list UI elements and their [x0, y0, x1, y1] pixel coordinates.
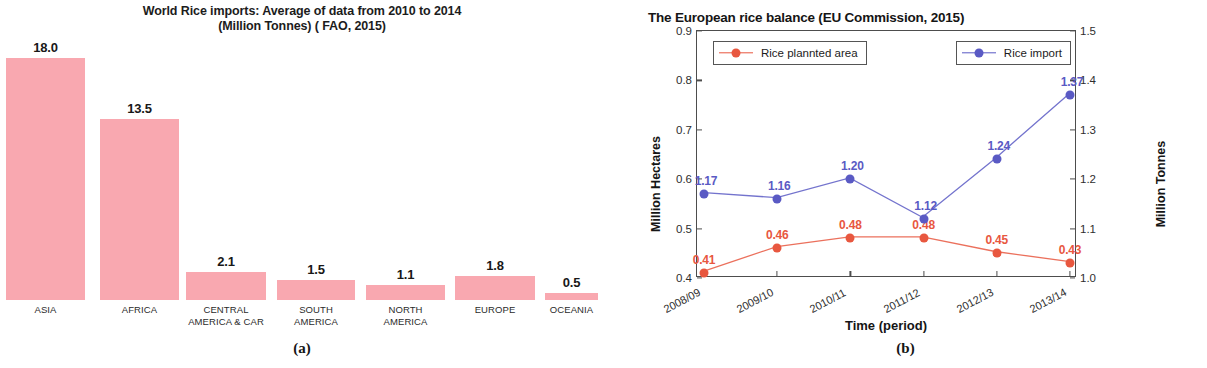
y-axis-left-tick: 0.8: [676, 74, 692, 86]
bar-category-label: ASIA: [0, 304, 97, 316]
bar-category-line: AMERICA: [265, 316, 367, 328]
figure-caption-a: (a): [0, 340, 604, 357]
figure-caption-b: (b): [604, 340, 1207, 357]
data-point-marker[interactable]: [700, 269, 709, 278]
y-axis-right-tick-mark: [1070, 129, 1075, 130]
y-axis-left-tick-mark: [697, 228, 702, 229]
bar-category-label: SOUTHAMERICA: [265, 304, 367, 327]
panel-b-line-chart: The European rice balance (EU Commission…: [604, 0, 1207, 368]
legend-label-planted: Rice plannted area: [761, 47, 858, 59]
data-point-label: 0.41: [693, 253, 716, 267]
y-axis-left-label: Million Hectares: [649, 136, 663, 232]
bar-value-label: 0.5: [545, 275, 598, 290]
data-point-label: 0.46: [766, 228, 789, 242]
y-axis-left-tick: 0.6: [676, 173, 692, 185]
bar-group: 13.5AFRICA: [100, 58, 179, 300]
bar-category-label: NORTHAMERICA: [354, 304, 457, 327]
bar-value-label: 18.0: [6, 40, 85, 55]
bar-rect[interactable]: [455, 276, 535, 300]
bar-group: 1.5SOUTHAMERICA: [277, 58, 355, 300]
bar-rect[interactable]: [100, 119, 179, 301]
y-axis-right-tick-mark: [1070, 179, 1075, 180]
figure-root: World Rice imports: Average of data from…: [0, 0, 1207, 368]
legend-label-import: Rice import: [1004, 47, 1062, 59]
data-point-label: 1.17: [695, 174, 718, 188]
data-point-label: 0.48: [839, 218, 862, 232]
bar-value-label: 13.5: [100, 101, 179, 116]
bar-value-label: 2.1: [186, 254, 266, 269]
bar-category-line: EUROPE: [443, 304, 547, 316]
data-point-label: 1.12: [914, 199, 937, 213]
data-point-label: 1.37: [1061, 75, 1084, 89]
legend-marker-planted-icon: [719, 47, 753, 59]
x-axis-tick-label: 2011/12: [881, 286, 921, 315]
bar-value-label: 1.1: [366, 267, 445, 282]
data-point-marker[interactable]: [1066, 91, 1075, 100]
bar-group: 1.8EUROPE: [455, 58, 535, 300]
data-point-label: 1.24: [988, 139, 1011, 153]
y-axis-right-tick: 1.5: [1080, 25, 1096, 37]
bar-rect[interactable]: [277, 280, 355, 300]
x-axis-tick-label: 2008/09: [662, 286, 703, 315]
y-axis-left-tick: 0.5: [676, 223, 692, 235]
data-point-marker[interactable]: [1066, 259, 1075, 268]
bar-rect[interactable]: [186, 272, 266, 300]
bar-rect[interactable]: [545, 293, 598, 300]
bar-category-line: CENTRAL: [174, 304, 278, 316]
x-axis-tick-label: 2013/14: [1028, 286, 1069, 315]
line-plot-area: Rice plannted area Rice import 0.40.50.6…: [696, 30, 1076, 277]
x-axis-tick-mark: [777, 271, 778, 276]
bar-category-label: CENTRALAMERICA & CAR: [174, 304, 278, 327]
data-point-label: 0.43: [1059, 243, 1082, 257]
y-axis-right-label: Million Tonnes: [1155, 141, 1169, 228]
x-axis-tick-mark: [1069, 271, 1070, 276]
data-point-marker[interactable]: [700, 190, 709, 199]
bar-category-line: NORTH: [354, 304, 457, 316]
bar-rect[interactable]: [366, 285, 445, 300]
x-axis-tick-label: 2010/11: [808, 286, 848, 315]
y-axis-right-tick-mark: [1070, 30, 1075, 31]
series-line: [704, 95, 1068, 218]
legend-rice-import[interactable]: Rice import: [956, 41, 1071, 65]
y-axis-left-tick: 0.7: [676, 124, 692, 136]
y-axis-right-tick-mark: [1070, 277, 1075, 278]
legend-rice-planted-area[interactable]: Rice plannted area: [713, 41, 867, 65]
bar-value-label: 1.5: [277, 262, 355, 277]
data-point-marker[interactable]: [773, 194, 782, 203]
x-axis-label: Time (period): [696, 318, 1076, 333]
x-axis-tick-label: 2012/13: [954, 286, 995, 315]
y-axis-right-tick: 1.3: [1080, 124, 1096, 136]
data-point-marker[interactable]: [846, 234, 855, 243]
bar-group: 1.1NORTHAMERICA: [366, 58, 445, 300]
y-axis-left-tick-mark: [697, 80, 702, 81]
bar-chart-title-line1: World Rice imports: Average of data from…: [10, 4, 594, 19]
bar-category-line: ASIA: [0, 304, 97, 316]
y-axis-right-tick-mark: [1070, 228, 1075, 229]
y-axis-left-tick-mark: [697, 129, 702, 130]
panel-a-bar-chart: World Rice imports: Average of data from…: [0, 0, 604, 368]
data-point-marker[interactable]: [992, 249, 1001, 258]
series-lines-layer: [697, 31, 1075, 276]
data-point-marker[interactable]: [773, 244, 782, 253]
bar-rect[interactable]: [6, 58, 85, 300]
bar-category-line: OCEANIA: [533, 304, 610, 316]
bar-value-label: 1.8: [455, 258, 535, 273]
bar-group: 2.1CENTRALAMERICA & CAR: [186, 58, 266, 300]
data-point-label: 1.20: [841, 159, 864, 173]
bar-category-line: AMERICA: [354, 316, 457, 328]
data-point-marker[interactable]: [846, 175, 855, 184]
data-point-marker[interactable]: [992, 155, 1001, 164]
bar-plot-area: 18.0ASIA13.5AFRICA2.1CENTRALAMERICA & CA…: [0, 58, 604, 300]
data-point-marker[interactable]: [919, 214, 928, 223]
data-point-label: 0.45: [986, 233, 1009, 247]
line-chart-title: The European rice balance (EU Commission…: [648, 10, 1207, 25]
y-axis-left-tick-mark: [697, 277, 702, 278]
data-point-label: 1.16: [768, 179, 791, 193]
x-axis-tick-mark: [850, 271, 851, 276]
y-axis-right-tick: 1.0: [1080, 272, 1096, 284]
bar-category-label: OCEANIA: [533, 304, 610, 316]
bar-group: 0.5OCEANIA: [545, 58, 598, 300]
y-axis-right-tick: 1.2: [1080, 173, 1096, 185]
bar-category-line: SOUTH: [265, 304, 367, 316]
data-point-marker[interactable]: [919, 234, 928, 243]
